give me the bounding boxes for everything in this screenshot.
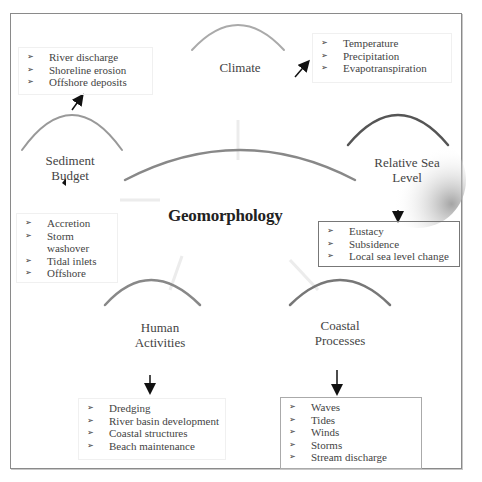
sediment-sources-box: ➢River discharge ➢Shoreline erosion ➢Off…: [18, 47, 153, 95]
arrow-bullet-icon: ➢: [87, 427, 94, 440]
list-item: ➢Tides: [287, 414, 415, 427]
climate-arc: [192, 25, 284, 50]
list-item: ➢Coastal structures: [85, 427, 219, 440]
arrow-bullet-icon: ➢: [25, 217, 32, 230]
list-item: ➢Evapotranspiration: [319, 62, 445, 75]
coastal-arc: [290, 280, 390, 305]
list-item: ➢Offshore deposits: [25, 76, 146, 89]
arrow-bullet-icon: ➢: [87, 440, 94, 453]
list-item: ➢Temperature: [319, 37, 445, 50]
sediment-arc: [22, 115, 122, 150]
sea-level-factors-box: ➢Eustacy ➢Subsidence ➢Local sea level ch…: [318, 221, 460, 267]
sediment-sinks-box: ➢Accretion ➢Storm washover ➢Tidal inlets…: [16, 213, 118, 283]
list-item: ➢Dredging: [85, 402, 219, 415]
arrow-bullet-icon: ➢: [289, 439, 296, 452]
list-item: ➢Storms: [287, 439, 415, 452]
arrow-bullet-icon: ➢: [25, 230, 32, 243]
arrow-bullet-icon: ➢: [289, 451, 296, 464]
human-activities-label: Human Activities: [120, 320, 200, 350]
list-item: ➢Subsidence: [325, 238, 453, 251]
arrow-bullet-icon: ➢: [87, 415, 94, 428]
arrow-bullet-icon: ➢: [25, 255, 32, 268]
center-arc: [125, 150, 355, 180]
climate-factors-box: ➢Temperature ➢Precipitation ➢Evapotransp…: [312, 33, 452, 83]
arrow-bullet-icon: ➢: [289, 401, 296, 414]
arrow-bullet-icon: ➢: [321, 37, 328, 50]
arrow-bullet-icon: ➢: [27, 51, 34, 64]
human-arc: [105, 280, 200, 305]
arrow-bullet-icon: ➢: [321, 62, 328, 75]
list-item: ➢Winds: [287, 426, 415, 439]
list-item: ➢Storm washover: [23, 230, 111, 255]
arrow-bullet-icon: ➢: [327, 225, 334, 238]
arrow-bullet-icon: ➢: [327, 238, 334, 251]
sediment-budget-label: Sediment Budget: [35, 153, 105, 183]
human-activities-box: ➢Dredging ➢River basin development ➢Coas…: [78, 398, 226, 460]
arrow-bullet-icon: ➢: [327, 250, 334, 263]
arrow-bullet-icon: ➢: [289, 414, 296, 427]
list-item: ➢Offshore: [23, 267, 111, 280]
list-item: ➢Eustacy: [325, 225, 453, 238]
arrow-bullet-icon: ➢: [87, 402, 94, 415]
list-item: ➢Stream discharge: [287, 451, 415, 464]
coastal-processes-label: Coastal Processes: [295, 318, 385, 348]
arrow-bullet-icon: ➢: [25, 267, 32, 280]
coastal-processes-box: ➢Waves ➢Tides ➢Winds ➢Storms ➢Stream dis…: [280, 397, 422, 469]
list-item: ➢Accretion: [23, 217, 111, 230]
list-item: ➢River basin development: [85, 415, 219, 428]
list-item: ➢River discharge: [25, 51, 146, 64]
center-title: Geomorphology: [168, 206, 283, 226]
list-item: ➢Beach maintenance: [85, 440, 219, 453]
list-item: ➢Precipitation: [319, 50, 445, 63]
arrow-bullet-icon: ➢: [289, 426, 296, 439]
list-item: ➢Waves: [287, 401, 415, 414]
list-item: ➢Shoreline erosion: [25, 64, 146, 77]
climate-label: Climate: [210, 60, 270, 75]
list-item: ➢Local sea level change: [325, 250, 453, 263]
arrow-bullet-icon: ➢: [321, 50, 328, 63]
arrow-bullet-icon: ➢: [27, 64, 34, 77]
relative-sea-level-label: Relative Sea Level: [362, 155, 452, 185]
arrow-bullet-icon: ➢: [27, 76, 34, 89]
list-item: ➢Tidal inlets: [23, 255, 111, 268]
